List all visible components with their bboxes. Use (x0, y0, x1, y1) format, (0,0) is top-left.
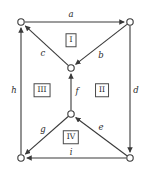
edge-label-f: f (75, 87, 78, 96)
diagram-canvas: abcdefghi IIIIIIIV (0, 0, 148, 172)
edge-label-d: d (133, 86, 138, 95)
edge-label-c: c (41, 49, 46, 58)
node-tl[interactable] (18, 19, 24, 25)
node-bl[interactable] (18, 155, 24, 161)
edge-label-e: e (98, 123, 103, 132)
edge-g (25, 117, 68, 155)
graph-svg (0, 0, 148, 172)
edge-label-b: b (98, 51, 103, 60)
face-label-ii: II (95, 83, 109, 97)
face-label-iii: III (34, 83, 51, 97)
edge-c (25, 26, 68, 66)
edge-label-g: g (40, 125, 45, 134)
face-label-iv: IV (63, 130, 79, 144)
edge-label-a: a (68, 10, 73, 19)
node-tr[interactable] (127, 19, 133, 25)
node-cu[interactable] (68, 65, 74, 71)
edge-label-h: h (11, 86, 16, 95)
face-label-i: I (66, 33, 77, 47)
node-cd[interactable] (68, 111, 74, 117)
node-br[interactable] (127, 155, 133, 161)
edge-label-i: i (70, 148, 73, 157)
